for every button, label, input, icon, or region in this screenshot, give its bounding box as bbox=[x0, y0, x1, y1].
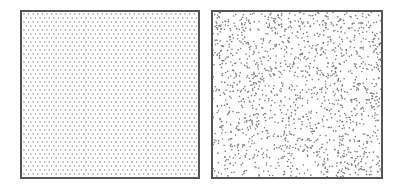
random-dot-pattern-panel bbox=[211, 10, 383, 179]
regular-dot-pattern-panel bbox=[20, 10, 200, 179]
random-dot-scatter bbox=[213, 12, 381, 177]
regular-dot-grid bbox=[22, 12, 198, 177]
